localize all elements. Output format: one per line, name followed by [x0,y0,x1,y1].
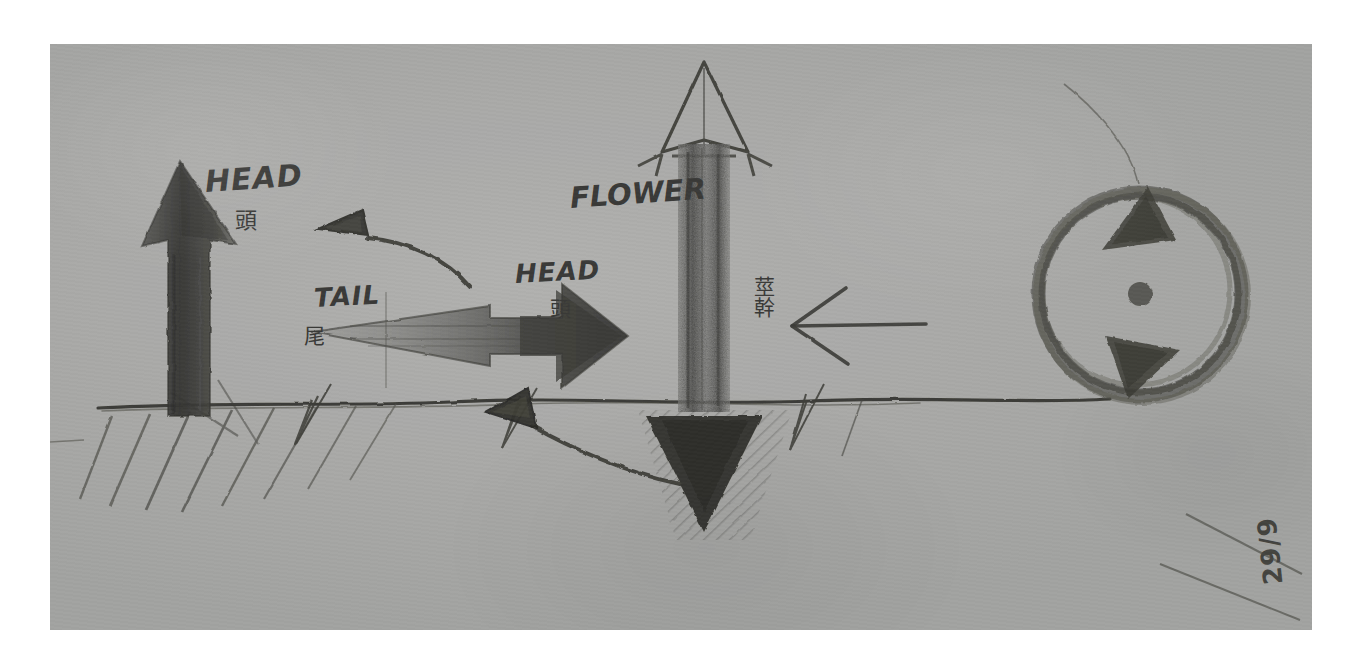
upward-head-arrow [142,161,236,416]
left-line-arrow [792,288,926,364]
horizontal-gradient-arrow [312,284,628,388]
flower-stem-arrow [638,62,792,540]
ground-hatching [80,380,396,512]
pencil-drawing [50,44,1312,630]
ground-line [98,399,1110,411]
curved-tail-arrow [318,210,470,287]
rotation-circle [1036,84,1248,402]
screenshot-canvas: HEAD 頭 TAIL 尾 HEAD 頭 FLOWER 莖幹 29/9 [0,0,1363,671]
sketch-paper: HEAD 頭 TAIL 尾 HEAD 頭 FLOWER 莖幹 29/9 [50,44,1312,630]
